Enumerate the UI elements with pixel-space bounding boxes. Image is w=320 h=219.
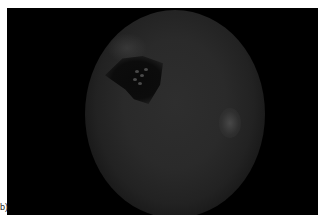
- fundus-image-frame: [7, 8, 318, 215]
- panel-label: b): [0, 202, 8, 212]
- lesion-speck: [138, 82, 142, 85]
- lesion-speck: [133, 78, 137, 81]
- pale-lesion-spot: [219, 108, 241, 138]
- lesion-speck: [144, 68, 148, 71]
- lesion-speck: [135, 70, 139, 73]
- lesion-speck: [140, 74, 144, 77]
